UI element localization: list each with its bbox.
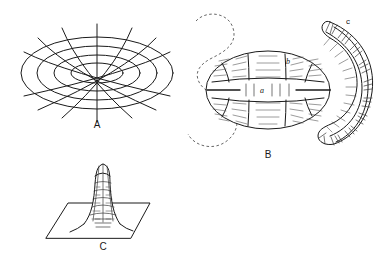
panel-a-label: A xyxy=(94,119,101,130)
panel-b-sublabel-c: c xyxy=(346,17,350,26)
figure-root: A xyxy=(0,0,388,264)
diagram-canvas: A xyxy=(0,0,388,264)
panel-b-label: B xyxy=(265,149,272,160)
panel-c-label: C xyxy=(99,241,106,252)
panel-b-sublabel-b: b xyxy=(286,57,290,66)
panel-b-sublabel-a: a xyxy=(260,86,264,95)
